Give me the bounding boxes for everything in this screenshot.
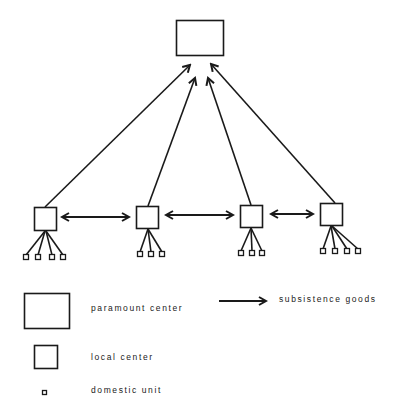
legend-domestic-unit-symbol (43, 391, 47, 395)
domestic-unit (239, 251, 244, 256)
domestic-unit (345, 249, 350, 254)
legend-local-center-label: local center (91, 352, 154, 362)
local-center-3 (241, 206, 263, 228)
domestic-unit (260, 251, 265, 256)
legend-subsistence-goods-label: subsistence goods (279, 294, 377, 304)
domestic-unit (138, 252, 143, 257)
local-center-2 (137, 207, 159, 229)
domestic-unit (61, 255, 66, 260)
domestic-unit (149, 252, 154, 257)
tribute-arrow-4 (211, 64, 335, 203)
local-center-1 (35, 208, 57, 231)
legend-local-center-symbol (35, 346, 58, 369)
domestic-unit (36, 255, 41, 260)
tribute-arrow-2 (148, 78, 195, 206)
domestic-unit (50, 255, 55, 260)
tribute-arrow-1 (45, 65, 190, 207)
domestic-unit (321, 249, 326, 254)
legend-domestic-unit-label: domestic unit (91, 385, 162, 395)
domestic-unit (160, 252, 165, 257)
paramount-center-box (177, 21, 224, 56)
tribute-arrow-3 (208, 78, 251, 205)
domestic-unit-links (26, 226, 358, 255)
exchange-arrows (62, 214, 313, 217)
tribute-arrows (45, 64, 335, 207)
domestic-units (24, 249, 361, 260)
domestic-unit (250, 251, 255, 256)
domestic-unit (333, 249, 338, 254)
legend-paramount-center-label: paramount center (91, 303, 183, 313)
local-center-4 (321, 204, 343, 226)
exchange-network-diagram (0, 0, 399, 420)
domestic-unit (356, 249, 361, 254)
legend-paramount-center-symbol (25, 294, 70, 329)
domestic-unit (24, 255, 29, 260)
